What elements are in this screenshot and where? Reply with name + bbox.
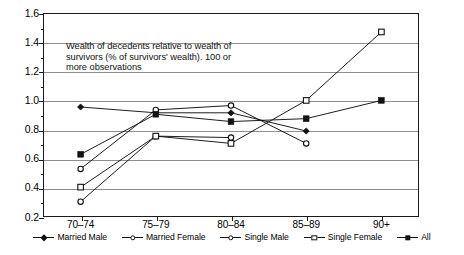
legend-symbol (40, 234, 47, 241)
data-point-circle-open (304, 141, 309, 146)
legend-marker-square-open-icon (304, 233, 325, 242)
legend-symbol (312, 235, 317, 240)
legend-item-single-male[interactable]: Single Male (220, 233, 288, 242)
legend-symbol (405, 235, 410, 240)
legend-item-married-female[interactable]: Married Female (122, 233, 205, 242)
data-point-square-open (78, 184, 84, 190)
data-point-circle-open (228, 135, 233, 140)
legend-label: Single Male (244, 233, 288, 242)
data-point-circle-open (78, 166, 83, 171)
data-point-circle-open (228, 103, 233, 108)
data-point-diamond-filled (303, 128, 309, 134)
data-series-layer (0, 0, 464, 255)
chart-figure: 0.20.40.60.81.01.21.41.6 70–7475–7980–84… (0, 0, 464, 255)
data-point-circle-open (78, 199, 83, 204)
legend-item-all[interactable]: All (397, 233, 430, 242)
legend-marker-diamond-filled-icon (33, 233, 54, 242)
data-point-square-open (303, 98, 309, 104)
data-point-square-filled (78, 152, 84, 158)
data-point-square-filled (379, 98, 385, 104)
data-point-diamond-filled (78, 104, 84, 110)
chart-legend: Married MaleMarried FemaleSingle MaleSin… (0, 233, 464, 242)
data-point-square-open (153, 133, 159, 139)
legend-item-single-female[interactable]: Single Female (304, 233, 382, 242)
legend-label: Married Male (57, 233, 107, 242)
legend-label: All (421, 233, 430, 242)
legend-item-married-male[interactable]: Married Male (33, 233, 107, 242)
data-point-square-open (228, 141, 234, 147)
legend-label: Single Female (328, 233, 382, 242)
legend-symbol (130, 235, 135, 240)
data-point-square-filled (153, 111, 159, 117)
data-point-square-filled (228, 119, 234, 125)
series-single-male (78, 133, 234, 204)
legend-marker-square-filled-icon (397, 233, 418, 242)
legend-label: Married Female (146, 233, 205, 242)
data-point-square-filled (303, 116, 309, 122)
data-point-square-open (379, 29, 385, 35)
legend-marker-circle-open-icon (122, 233, 143, 242)
data-point-diamond-filled (228, 110, 234, 116)
legend-symbol (228, 235, 233, 240)
legend-marker-circle-open-icon (220, 233, 241, 242)
